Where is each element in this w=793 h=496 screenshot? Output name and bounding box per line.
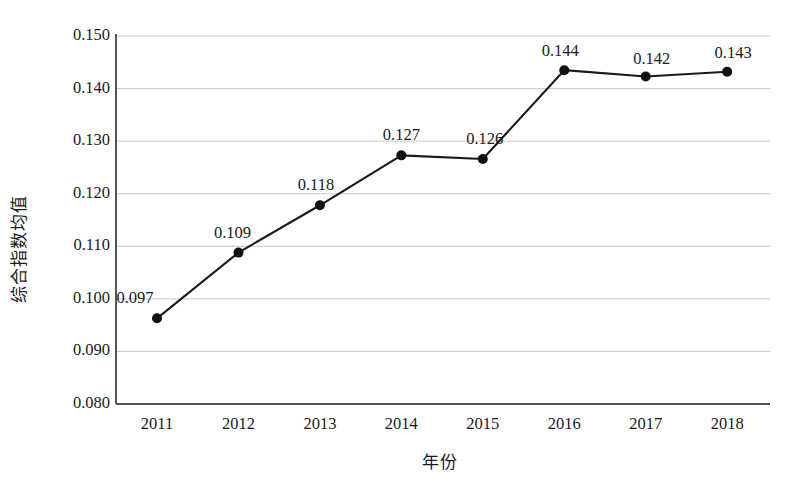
line-chart: 综合指数均值 年份 0.1500.1400.1300.1200.1100.100…: [0, 0, 793, 496]
data-point-value-label: 0.126: [445, 129, 525, 149]
x-axis-tick-label: 2012: [198, 414, 278, 434]
gridlines: [116, 36, 770, 351]
x-axis-tick-label: 2018: [687, 414, 767, 434]
data-point-marker[interactable]: [478, 154, 488, 164]
y-axis-tick-label: 0.120: [10, 183, 110, 203]
y-axis-tick-label: 0.130: [10, 130, 110, 150]
data-point-value-label: 0.127: [361, 125, 441, 145]
y-axis-tick-label: 0.110: [10, 235, 110, 255]
x-axis-tick-label: 2017: [606, 414, 686, 434]
data-point-marker[interactable]: [315, 200, 325, 210]
y-axis-tick-label: 0.080: [10, 393, 110, 413]
series-line: [157, 70, 727, 318]
x-axis-tick-label: 2015: [443, 414, 523, 434]
x-axis-tick-label: 2016: [524, 414, 604, 434]
data-point-marker[interactable]: [559, 65, 569, 75]
y-axis-tick-label: 0.090: [10, 340, 110, 360]
data-point-marker[interactable]: [152, 313, 162, 323]
y-axis-tick-label: 0.140: [10, 78, 110, 98]
data-point-value-label: 0.097: [95, 288, 175, 308]
data-point-value-label: 0.109: [192, 223, 272, 243]
data-point-marker[interactable]: [722, 67, 732, 77]
series-markers: [152, 65, 732, 323]
data-point-value-label: 0.143: [693, 43, 773, 63]
data-point-marker[interactable]: [233, 248, 243, 258]
data-point-value-label: 0.142: [612, 49, 692, 69]
data-point-value-label: 0.144: [520, 41, 600, 61]
data-point-marker[interactable]: [641, 71, 651, 81]
x-axis-tick-label: 2014: [361, 414, 441, 434]
x-axis-tick-label: 2013: [280, 414, 360, 434]
x-axis-tick-label: 2011: [117, 414, 197, 434]
data-point-marker[interactable]: [396, 150, 406, 160]
data-point-value-label: 0.118: [276, 175, 356, 195]
y-axis-tick-label: 0.150: [10, 25, 110, 45]
x-axis-title-text: 年份: [422, 448, 458, 473]
x-axis-title: 年份: [0, 448, 793, 473]
